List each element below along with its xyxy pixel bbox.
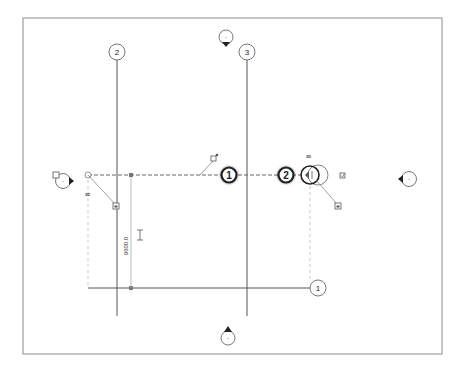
dimension-value[interactable]: 9600.0 <box>123 236 129 255</box>
grid-line-2[interactable]: 2 <box>109 44 125 316</box>
leader-line-middle <box>200 161 213 175</box>
elevation-marker-bottom[interactable]: - <box>221 326 235 345</box>
tag-3d-left[interactable]: 3D <box>85 192 90 197</box>
dimension-lock-icon[interactable] <box>137 230 143 240</box>
crop-region-frame[interactable] <box>23 18 442 354</box>
leader-line-right <box>316 180 337 204</box>
leader-line-left <box>88 175 116 205</box>
selected-grid-line[interactable]: 3D 1 2 3D <box>85 154 345 209</box>
elbow-handle[interactable] <box>211 156 216 161</box>
grid-end-drag-icon[interactable] <box>305 171 309 179</box>
grid-intersection-node <box>129 173 133 177</box>
selected-grid-label-1: 1 <box>226 170 232 181</box>
grid-label-2: 2 <box>115 48 120 57</box>
elevation-marker-top[interactable]: - <box>219 30 233 47</box>
grid-line-3[interactable]: 3 <box>239 44 255 316</box>
selected-grid-label-2: 2 <box>283 170 289 181</box>
lock-glyph <box>337 206 340 208</box>
grid-line-1[interactable]: 1 <box>88 280 326 296</box>
elevation-marker-left[interactable]: - <box>53 172 74 189</box>
lock-glyph <box>115 206 118 208</box>
elevation-view-checkbox[interactable] <box>53 172 59 178</box>
elbow-dot <box>216 154 219 157</box>
grid-label-3: 3 <box>245 48 250 57</box>
floor-plan-canvas[interactable]: 2 3 1 9600.0 3D <box>0 0 465 372</box>
elevation-marker-right[interactable]: - <box>398 172 417 187</box>
dimension-9600[interactable]: 9600.0 <box>123 175 143 288</box>
grid-label-1: 1 <box>316 284 321 293</box>
tag-3d-right[interactable]: 3D <box>306 154 311 159</box>
